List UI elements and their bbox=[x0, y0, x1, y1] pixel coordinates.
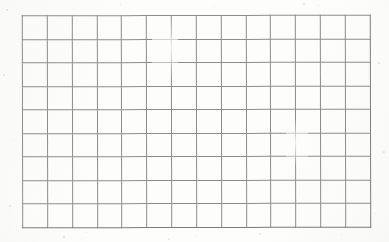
grid-cell[interactable] bbox=[47, 110, 72, 134]
grid-cell[interactable] bbox=[146, 16, 171, 40]
grid-cell[interactable] bbox=[221, 62, 246, 86]
grid-cell[interactable] bbox=[47, 39, 72, 63]
grid-cell[interactable] bbox=[147, 204, 172, 228]
grid-cell[interactable] bbox=[171, 86, 196, 110]
grid-cell[interactable] bbox=[122, 110, 147, 134]
grid-cell[interactable] bbox=[246, 204, 271, 228]
grid-cell[interactable] bbox=[171, 16, 196, 40]
grid-cell[interactable] bbox=[122, 204, 147, 228]
grid-cell[interactable] bbox=[72, 110, 97, 134]
grid-cell[interactable] bbox=[296, 180, 321, 204]
grid-cell[interactable] bbox=[196, 39, 221, 63]
grid-cell[interactable] bbox=[345, 109, 370, 133]
grid-cell[interactable] bbox=[320, 39, 345, 63]
grid-cell[interactable] bbox=[122, 133, 147, 157]
grid-cell[interactable] bbox=[221, 204, 246, 228]
grid-cell[interactable] bbox=[147, 133, 172, 157]
grid-cell[interactable] bbox=[97, 157, 122, 181]
grid-cell[interactable] bbox=[23, 134, 48, 158]
grid-cell[interactable] bbox=[72, 204, 97, 228]
grid-cell[interactable] bbox=[345, 39, 370, 63]
grid-cell[interactable] bbox=[345, 15, 370, 39]
grid-cell[interactable] bbox=[97, 110, 122, 134]
grid-cell[interactable] bbox=[122, 180, 147, 204]
grid-cell[interactable] bbox=[246, 110, 271, 134]
grid-cell[interactable] bbox=[47, 133, 72, 157]
grid-cell[interactable] bbox=[172, 157, 197, 181]
grid-cell[interactable] bbox=[172, 204, 197, 228]
grid-cell[interactable] bbox=[221, 180, 246, 204]
grid-cell[interactable] bbox=[122, 157, 147, 181]
grid-cell[interactable] bbox=[171, 63, 196, 87]
grid-cell[interactable] bbox=[271, 204, 296, 228]
grid-cell[interactable] bbox=[320, 15, 345, 39]
grid-cell[interactable] bbox=[296, 109, 321, 133]
grid-cell[interactable] bbox=[221, 133, 246, 157]
grid-cell[interactable] bbox=[321, 62, 346, 86]
grid-cell[interactable] bbox=[172, 180, 197, 204]
grid-cell[interactable] bbox=[122, 39, 147, 63]
grid-cell[interactable] bbox=[47, 16, 72, 40]
grid-cell[interactable] bbox=[23, 204, 48, 228]
grid-cell[interactable] bbox=[171, 39, 196, 63]
grid-cell[interactable] bbox=[22, 63, 47, 87]
grid-cell[interactable] bbox=[321, 133, 346, 157]
grid-cell[interactable] bbox=[97, 204, 122, 228]
grid-cell[interactable] bbox=[122, 63, 147, 87]
grid-cell[interactable] bbox=[47, 86, 72, 110]
grid-cell[interactable] bbox=[196, 110, 221, 134]
grid-cell[interactable] bbox=[296, 157, 321, 181]
grid-cell[interactable] bbox=[296, 15, 321, 39]
grid-cell[interactable] bbox=[22, 16, 47, 40]
grid-cell[interactable] bbox=[246, 180, 271, 204]
grid-cell[interactable] bbox=[346, 180, 371, 204]
grid-cell[interactable] bbox=[22, 86, 47, 110]
grid-cell[interactable] bbox=[147, 180, 172, 204]
grid-cell[interactable] bbox=[196, 157, 221, 181]
grid-cell[interactable] bbox=[271, 86, 296, 110]
grid-cell[interactable] bbox=[271, 157, 296, 181]
grid-cell[interactable] bbox=[72, 86, 97, 110]
grid-cell[interactable] bbox=[196, 15, 221, 39]
grid-cell[interactable] bbox=[271, 180, 296, 204]
grid-cell[interactable] bbox=[296, 62, 321, 86]
grid-cell[interactable] bbox=[246, 39, 271, 63]
grid-cell[interactable] bbox=[172, 133, 197, 157]
grid-cell[interactable] bbox=[321, 86, 346, 110]
grid-cell[interactable] bbox=[296, 86, 321, 110]
grid-cell[interactable] bbox=[296, 204, 321, 228]
grid-cell[interactable] bbox=[321, 180, 346, 204]
grid-cell[interactable] bbox=[221, 86, 246, 110]
grid-cell[interactable] bbox=[321, 109, 346, 133]
grid-cell[interactable] bbox=[147, 110, 172, 134]
grid-cell[interactable] bbox=[246, 157, 271, 181]
grid-cell[interactable] bbox=[321, 204, 346, 228]
grid-cell[interactable] bbox=[246, 86, 271, 110]
grid-cell[interactable] bbox=[221, 110, 246, 134]
grid-cell[interactable] bbox=[72, 181, 97, 205]
grid-cell[interactable] bbox=[147, 86, 172, 110]
grid-cell[interactable] bbox=[271, 15, 296, 39]
grid-cell[interactable] bbox=[246, 15, 271, 39]
grid-cell[interactable] bbox=[72, 16, 97, 40]
grid-cell[interactable] bbox=[97, 63, 122, 87]
grid-cell[interactable] bbox=[246, 133, 271, 157]
grid-cell[interactable] bbox=[48, 204, 73, 228]
grid-cell[interactable] bbox=[221, 39, 246, 63]
grid-cell[interactable] bbox=[197, 180, 222, 204]
grid-cell[interactable] bbox=[97, 86, 122, 110]
grid-cell[interactable] bbox=[23, 157, 48, 181]
grid-cell[interactable] bbox=[346, 156, 371, 180]
grid-cell[interactable] bbox=[22, 110, 47, 134]
grid-cell[interactable] bbox=[47, 63, 72, 87]
grid-cell[interactable] bbox=[172, 110, 197, 134]
grid-cell[interactable] bbox=[246, 62, 271, 86]
grid-cell[interactable] bbox=[97, 39, 122, 63]
grid-cell[interactable] bbox=[346, 204, 371, 228]
grid-cell[interactable] bbox=[23, 181, 48, 205]
grid-cell[interactable] bbox=[271, 109, 296, 133]
grid-cell[interactable] bbox=[122, 16, 147, 40]
grid-cell[interactable] bbox=[321, 156, 346, 180]
grid-cell[interactable] bbox=[296, 39, 321, 63]
grid-cell[interactable] bbox=[72, 133, 97, 157]
